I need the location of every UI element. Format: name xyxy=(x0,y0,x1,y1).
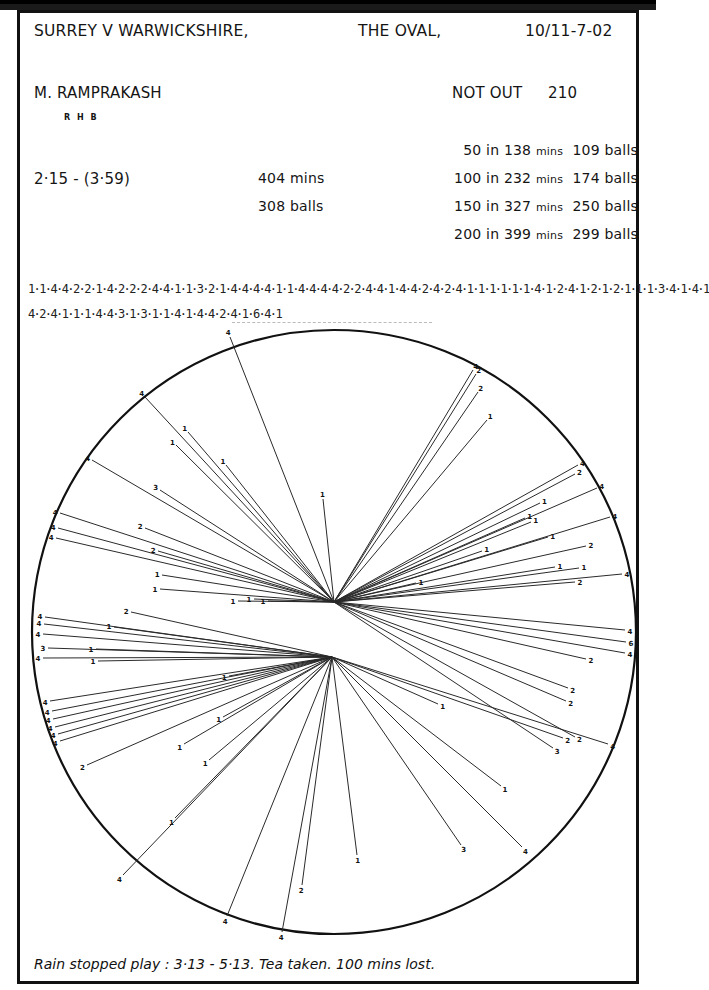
shot-runs-label: 2 xyxy=(151,547,156,555)
shot-runs-label: 2 xyxy=(476,367,481,375)
shot-line xyxy=(334,420,487,602)
shot-runs-label: 4 xyxy=(612,513,617,521)
shot-runs-label: 1 xyxy=(527,513,532,521)
shot-runs-label: 2 xyxy=(577,469,582,477)
shot-line xyxy=(332,657,522,847)
shot-line xyxy=(58,528,334,602)
shot-runs-label: 1 xyxy=(484,546,489,554)
shot-runs-label: 2 xyxy=(570,687,575,695)
shot-line xyxy=(334,602,566,701)
shot-runs-label: 1 xyxy=(550,533,555,541)
shot-line xyxy=(226,465,334,602)
shot-runs-label: 4 xyxy=(625,571,630,579)
shot-runs-label: 1 xyxy=(503,786,508,794)
shot-runs-label: 4 xyxy=(53,509,58,517)
shot-line xyxy=(53,657,332,719)
shot-runs-label: 1 xyxy=(261,598,266,606)
shot-runs-label: 4 xyxy=(53,740,58,748)
shot-runs-label: 2 xyxy=(588,657,593,665)
shot-runs-label: 1 xyxy=(169,819,174,827)
shot-runs-label: 2 xyxy=(577,736,582,744)
shot-runs-label: 1 xyxy=(107,623,112,631)
shot-runs-label: 1 xyxy=(582,564,587,572)
shot-line xyxy=(334,602,586,659)
shot-runs-label: 4 xyxy=(36,631,41,639)
shot-line xyxy=(334,602,625,653)
shot-runs-label: 1 xyxy=(153,586,158,594)
shot-line xyxy=(332,657,608,744)
shot-runs-label: 4 xyxy=(49,534,54,542)
shot-runs-label: 4 xyxy=(117,876,122,884)
shot-runs-label: 2 xyxy=(568,700,573,708)
shot-runs-label: 1 xyxy=(177,744,182,752)
shot-line xyxy=(158,551,334,602)
shot-runs-label: 1 xyxy=(216,716,221,724)
shot-line xyxy=(334,602,625,630)
shot-runs-label: 1 xyxy=(488,413,493,421)
shot-runs-label: 1 xyxy=(557,563,562,571)
shot-runs-label: 4 xyxy=(279,934,284,942)
shot-runs-label: 4 xyxy=(523,848,528,856)
shot-runs-label: 4 xyxy=(627,651,632,659)
shot-line xyxy=(334,602,626,642)
shot-line xyxy=(302,657,332,885)
shot-runs-label: 1 xyxy=(542,498,547,506)
shot-runs-label: 1 xyxy=(220,458,225,466)
shot-runs-label: 1 xyxy=(170,439,175,447)
shot-runs-label: 1 xyxy=(231,598,236,606)
shot-runs-label: 4 xyxy=(223,918,228,926)
shot-runs-label: 1 xyxy=(533,517,538,525)
shot-line xyxy=(160,490,334,602)
shot-lines xyxy=(43,337,626,932)
shot-runs-label: 1 xyxy=(222,674,227,682)
shot-line xyxy=(334,602,553,748)
shot-runs-label: 1 xyxy=(247,596,252,604)
shot-runs-label: 4 xyxy=(85,455,90,463)
shot-runs-label: 1 xyxy=(355,857,360,865)
shot-line xyxy=(334,522,531,602)
shot-line xyxy=(332,657,563,738)
shot-runs-label: 1 xyxy=(440,703,445,711)
shot-runs-label: 2 xyxy=(138,523,143,531)
shot-runs-label: 3 xyxy=(41,645,46,653)
shot-runs-label: 4 xyxy=(51,524,56,532)
shot-runs-label: 4 xyxy=(628,628,633,636)
shot-runs-label: 6 xyxy=(629,640,634,648)
footer-note: Rain stopped play : 3·13 - 5·13. Tea tak… xyxy=(34,956,435,972)
shot-runs-label: 4 xyxy=(580,460,585,468)
shot-runs-label: 1 xyxy=(182,425,187,433)
shot-line xyxy=(332,657,501,786)
shot-runs-label: 4 xyxy=(37,620,42,628)
shot-runs-label: 4 xyxy=(599,483,604,491)
shot-line xyxy=(282,657,332,932)
shot-runs-label: 2 xyxy=(565,737,570,745)
shot-runs-label: 2 xyxy=(124,608,129,616)
shot-line xyxy=(131,612,332,657)
shot-runs-label: 4 xyxy=(46,717,51,725)
shot-line xyxy=(332,657,357,855)
shot-runs-label: 1 xyxy=(320,491,325,499)
shot-runs-label: 2 xyxy=(588,542,593,550)
shot-runs-label: 4 xyxy=(610,743,615,751)
shot-line xyxy=(334,370,473,602)
shot-runs-label: 2 xyxy=(299,887,304,895)
shot-line xyxy=(230,337,334,602)
shot-line xyxy=(334,517,610,602)
shot-runs-label: 3 xyxy=(555,748,560,756)
shot-runs-label: 1 xyxy=(155,571,160,579)
shot-runs-label: 3 xyxy=(461,846,466,854)
boundary-circle xyxy=(32,330,636,934)
shot-runs-label: 2 xyxy=(80,764,85,772)
shot-runs-label: 4 xyxy=(45,709,50,717)
shot-runs-label: 1 xyxy=(418,579,423,587)
shot-runs-label: 4 xyxy=(139,390,144,398)
shot-line xyxy=(184,657,332,744)
shot-runs-label: 4 xyxy=(36,655,41,663)
shot-runs-label: 2 xyxy=(478,385,483,393)
shot-line xyxy=(334,602,568,688)
shot-runs-label: 2 xyxy=(578,579,583,587)
shot-runs-label: 4 xyxy=(226,329,231,337)
shot-line xyxy=(188,432,334,602)
shot-line xyxy=(323,499,334,602)
